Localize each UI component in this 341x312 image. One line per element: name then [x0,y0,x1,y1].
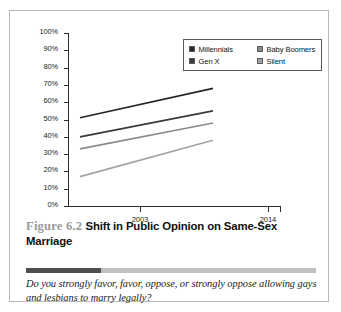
y-axis-tick-label: 100% [39,27,58,36]
figure-caption: Figure 6.2 Shift in Public Opinion on Sa… [26,219,316,249]
legend-row: Gen X Silent [189,55,317,67]
legend-swatch-silent [257,58,263,64]
legend-swatch-baby-boomers [257,46,263,52]
legend-label-gen-x: Gen X [199,57,220,66]
legend-swatch-gen-x [189,58,195,64]
legend-item-gen-x: Gen X [189,57,257,66]
figure-number: Figure 6.2 [26,219,82,233]
y-axis-tick-label: 90% [44,44,59,53]
y-axis-tick-label: 0% [48,200,58,209]
legend-label-baby-boomers: Baby Boomers [267,45,316,54]
series-line-millennials [80,88,213,117]
legend-label-silent: Silent [267,57,285,66]
caption-divider [26,268,316,273]
legend-item-baby-boomers: Baby Boomers [257,45,315,54]
y-axis-tick-label: 20% [44,165,59,174]
y-axis-tick-label: 10% [44,183,59,192]
legend-row: Millennials Baby Boomers [189,43,317,55]
caption-line: Figure 6.2 Shift in Public Opinion on Sa… [26,219,316,249]
divider-light-segment [101,268,316,273]
legend-item-silent: Silent [257,57,285,66]
divider-dark-segment [26,268,101,273]
series-line-gen-x [80,111,213,137]
figure-footnote: Do you strongly favor, favor, oppose, or… [26,277,318,304]
legend-item-millennials: Millennials [189,45,257,54]
y-axis-title: Percent favoring gay marriage [28,0,39,33]
legend-label-millennials: Millennials [199,45,233,54]
line-chart: Percent favoring gay marriage 100%90%80%… [10,11,330,216]
figure-card: Percent favoring gay marriage 100%90%80%… [9,10,329,302]
y-axis-tick-label: 50% [44,114,59,123]
chart-legend: Millennials Baby Boomers Gen X Silent [183,39,322,71]
y-axis-tick-label: 80% [44,62,59,71]
y-axis-tick-label: 40% [44,131,59,140]
y-axis-tick-label: 60% [44,96,59,105]
y-axis-tick-label: 70% [44,79,59,88]
legend-swatch-millennials [189,46,195,52]
y-axis-tick-label: 30% [44,148,59,157]
